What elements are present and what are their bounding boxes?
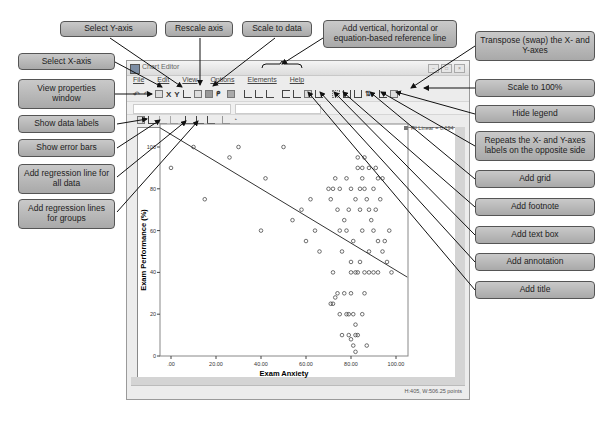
- callout-add-annotation: Add annotation: [475, 253, 595, 271]
- callout-hide-legend: Hide legend: [475, 105, 595, 123]
- plot-area: [160, 124, 408, 356]
- x-tick-label: .00: [167, 361, 175, 367]
- callout-add-grid: Add grid: [475, 170, 595, 188]
- y-tick-label: 0: [153, 353, 156, 359]
- callout-repeat-axis-labels: Repeats the X- and Y-axes labels on the …: [475, 131, 595, 161]
- callout-rescale-axis: Rescale axis: [165, 21, 233, 37]
- x-tick-label: 20.00: [209, 361, 223, 367]
- callout-select-y-axis: Select Y-axis: [60, 21, 157, 37]
- legend-text: R² Linear = 0.194: [411, 125, 454, 131]
- callout-show-error-bars: Show error bars: [18, 139, 115, 157]
- y-tick-label: 80: [150, 186, 156, 192]
- legend-swatch: [404, 126, 408, 130]
- callout-view-properties: View properties window: [18, 79, 115, 109]
- callout-select-x-axis: Select X-axis: [18, 53, 115, 70]
- y-axis-label: Exam Performance (%): [139, 209, 148, 291]
- x-tick-label: 60.00: [299, 361, 313, 367]
- callout-regression-groups: Add regression lines for groups: [18, 199, 115, 229]
- callout-add-title: Add title: [475, 281, 595, 299]
- callout-transpose: Transpose (swap) the X- and Y-axes: [475, 31, 595, 61]
- callout-show-data-labels: Show data labels: [18, 115, 115, 133]
- x-axis-label: Exam Anxiety: [260, 369, 310, 378]
- x-tick-label: 40.00: [254, 361, 268, 367]
- callout-regression-all: Add regression line for all data: [18, 164, 115, 194]
- callout-add-footnote: Add footnote: [475, 198, 595, 216]
- callout-reference-line: Add vertical, horizontal or equation-bas…: [323, 20, 457, 48]
- x-tick-label: 80.00: [344, 361, 358, 367]
- y-tick-label: 100: [147, 144, 156, 150]
- x-tick-label: 100.00: [388, 361, 405, 367]
- y-tick-label: 20: [150, 311, 156, 317]
- callout-scale-to-data: Scale to data: [242, 21, 312, 37]
- y-tick-label: 60: [150, 228, 156, 234]
- callout-scale-100: Scale to 100%: [475, 79, 595, 97]
- callout-add-text-box: Add text box: [475, 226, 595, 244]
- y-tick-label: 40: [150, 269, 156, 275]
